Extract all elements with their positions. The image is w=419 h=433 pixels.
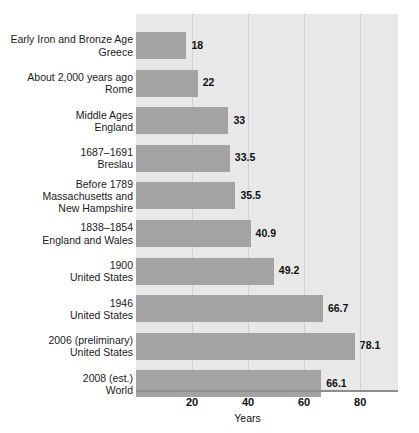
bar-value-label: 22 xyxy=(203,77,215,88)
bar-value-label: 66.7 xyxy=(328,303,348,314)
bar-value-label: 18 xyxy=(191,40,203,51)
bar-value-label: 66.1 xyxy=(326,378,346,389)
bar[interactable] xyxy=(136,370,321,397)
bar-value-label: 33.5 xyxy=(235,152,255,163)
category-label: About 2,000 years ago Rome xyxy=(0,71,133,95)
category-axis-labels: Early Iron and Bronze Age GreeceAbout 2,… xyxy=(0,18,133,390)
x-axis-title-text: Years xyxy=(234,412,260,424)
bar[interactable] xyxy=(136,107,228,134)
plot-area xyxy=(136,14,398,390)
bar[interactable] xyxy=(136,333,355,360)
bar[interactable] xyxy=(136,32,186,59)
bar[interactable] xyxy=(136,70,198,97)
x-tick-40: 40 xyxy=(242,396,254,408)
bar-value-label: 78.1 xyxy=(360,340,380,351)
category-label: 1838–1854 England and Wales xyxy=(0,221,133,245)
bar-value-label: 35.5 xyxy=(240,190,260,201)
category-label: 1687–1691 Breslau xyxy=(0,146,133,170)
bar[interactable] xyxy=(136,295,323,322)
x-tick-80: 80 xyxy=(354,396,366,408)
bar-value-label: 40.9 xyxy=(256,228,276,239)
category-label: Before 1789 Massachusetts and New Hampsh… xyxy=(0,178,133,215)
bar-value-label: 49.2 xyxy=(279,265,299,276)
category-label: Middle Ages England xyxy=(0,109,133,133)
bar[interactable] xyxy=(136,145,230,172)
bar[interactable] xyxy=(136,182,235,209)
x-tick-60: 60 xyxy=(298,396,310,408)
category-label: 2006 (preliminary) United States xyxy=(0,334,133,358)
category-label: Early Iron and Bronze Age Greece xyxy=(0,33,133,57)
category-label: 1946 United States xyxy=(0,297,133,321)
bar-value-label: 33 xyxy=(233,115,245,126)
bar[interactable] xyxy=(136,258,274,285)
x-tick-20: 20 xyxy=(186,396,198,408)
category-label: 1900 United States xyxy=(0,259,133,283)
bar[interactable] xyxy=(136,220,251,247)
gridline-80 xyxy=(360,14,361,390)
x-axis-title: Years xyxy=(0,412,419,424)
category-label: 2008 (est.) World xyxy=(0,372,133,396)
x-axis-line xyxy=(136,390,398,392)
life-expectancy-bar-chart: Early Iron and Bronze Age GreeceAbout 2,… xyxy=(0,0,419,433)
